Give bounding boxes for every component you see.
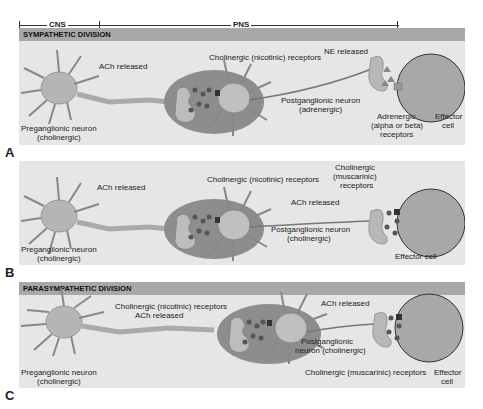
preganglionic-label: Preganglionic neuron: [21, 368, 97, 377]
preganglionic-label: Preganglionic neuron: [21, 124, 97, 133]
panel-letter-a: A: [5, 145, 14, 160]
ach-released-label: ACh released: [99, 62, 147, 71]
nicotinic-receptors-label: Cholinergic (nicotinic) receptors: [207, 175, 319, 184]
adrenergic-label: (alpha or beta): [371, 121, 423, 130]
nicotinic-receptors-label: Cholinergic (nicotinic) receptors: [115, 302, 227, 311]
muscarinic-label: (muscarinic): [333, 172, 377, 181]
preganglionic-type-label: (cholinergic): [37, 254, 81, 263]
preganglionic-type-label: (cholinergic): [37, 377, 81, 386]
postganglionic-label: neuron (cholinergic): [295, 346, 366, 355]
nicotinic-receptors-label: Cholinergic (nicotinic) receptors: [209, 53, 321, 62]
adrenergic-label: Adrenergic: [377, 112, 416, 121]
postganglionic-type-label: (cholinergic): [287, 234, 331, 243]
ach-released-2-label: ACh released: [321, 299, 369, 308]
panel-letter-b: B: [5, 265, 14, 280]
muscarinic-label: Cholinergic (muscarinic) receptors: [305, 368, 426, 377]
ach-released-label: ACh released: [97, 183, 145, 192]
preganglionic-type-label: (cholinergic): [37, 133, 81, 142]
panel-sympathetic-cholinergic: Preganglionic neuron (cholinergic) ACh r…: [19, 161, 465, 265]
effector-label: Effector cell: [395, 252, 437, 261]
adrenergic-label: receptors: [380, 130, 413, 139]
muscarinic-label: Cholinergic: [335, 163, 375, 172]
panel-letter-c: C: [5, 388, 14, 403]
panel-sympathetic: SYMPATHETIC DIVISION Preganglionic neuro…: [19, 28, 465, 145]
panel-parasympathetic: PARASYMPATHETIC DIVISION Preganglionic n…: [19, 282, 465, 388]
postganglionic-label: Postganglionic neuron: [281, 96, 360, 105]
ach-released-2-label: ACh released: [291, 198, 339, 207]
effector-label: Effector: [435, 112, 462, 121]
postganglionic-label: Postganglionic: [301, 337, 353, 346]
ne-released-label: NE released: [324, 47, 368, 56]
effector-label: cell: [441, 377, 453, 386]
muscarinic-label: receptors: [340, 181, 373, 190]
postganglionic-type-label: (adrenergic): [299, 105, 342, 114]
ach-released-label: ACh released: [135, 311, 183, 320]
preganglionic-label: Preganglionic neuron: [21, 245, 97, 254]
effector-label: cell: [442, 121, 454, 130]
effector-label: Effector: [434, 368, 461, 377]
postganglionic-label: Postganglionic neuron: [271, 225, 350, 234]
